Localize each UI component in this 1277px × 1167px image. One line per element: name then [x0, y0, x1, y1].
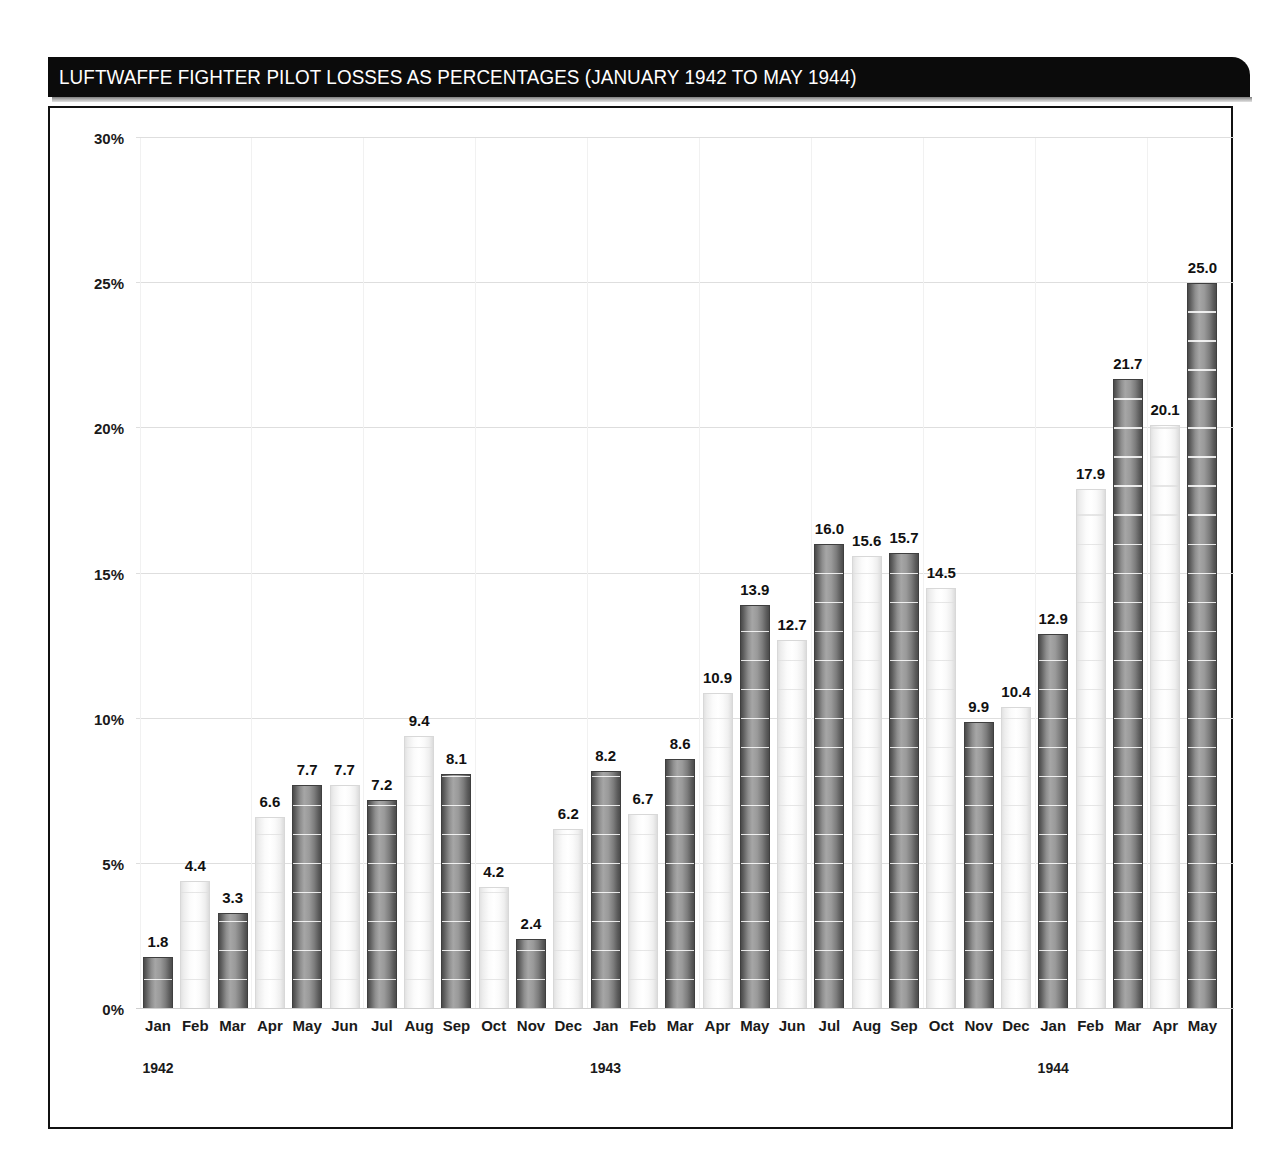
chart-title: LUFTWAFFE FIGHTER PILOT LOSSES AS PERCEN… [48, 65, 857, 89]
bar-value-label: 7.7 [334, 761, 355, 778]
bar[interactable] [479, 887, 509, 1009]
bar-segment-lines [965, 723, 993, 1008]
bar[interactable] [1038, 634, 1068, 1009]
bar-segment-lines [1188, 284, 1216, 1008]
y-axis-tick-label: 20% [54, 420, 124, 437]
bar-segment-lines [592, 772, 620, 1008]
v-gridline [1147, 138, 1148, 1009]
y-axis-tick-label: 25% [54, 275, 124, 292]
bar[interactable] [814, 544, 844, 1009]
bar[interactable] [1187, 283, 1217, 1009]
bar[interactable] [218, 913, 248, 1009]
bar[interactable] [926, 588, 956, 1009]
bar-value-label: 17.9 [1076, 465, 1105, 482]
bar-segment-lines [480, 888, 508, 1008]
bar-value-label: 3.3 [222, 889, 243, 906]
bar[interactable] [367, 800, 397, 1009]
bar-segment-lines [405, 737, 433, 1008]
y-axis-tick-label: 10% [54, 710, 124, 727]
bar[interactable] [889, 553, 919, 1009]
bar[interactable] [180, 881, 210, 1009]
bar-value-label: 7.7 [297, 761, 318, 778]
bar-value-label: 15.7 [889, 529, 918, 546]
bar[interactable] [852, 556, 882, 1009]
bar-value-label: 10.9 [703, 669, 732, 686]
h-gridline [136, 573, 1234, 574]
bar-segment-lines [666, 760, 694, 1008]
bar-segment-lines [815, 545, 843, 1008]
v-gridline [587, 138, 588, 1009]
bar-value-label: 8.1 [446, 750, 467, 767]
y-axis-tick-label: 0% [54, 1001, 124, 1018]
bar[interactable] [1001, 707, 1031, 1009]
bar[interactable] [777, 640, 807, 1009]
x-axis-tick-label: May [1180, 1017, 1224, 1034]
title-bar-shadow [52, 97, 1252, 102]
bar-segment-lines [741, 606, 769, 1008]
bar-segment-lines [1039, 635, 1067, 1008]
bar-value-label: 21.7 [1113, 355, 1142, 372]
bar-segment-lines [1077, 490, 1105, 1008]
bar[interactable] [1113, 379, 1143, 1009]
bar-segment-lines [704, 694, 732, 1008]
v-gridline [140, 138, 141, 1009]
bar[interactable] [665, 759, 695, 1009]
bar-segment-lines [144, 958, 172, 1008]
bar-segment-lines [1114, 380, 1142, 1008]
bar[interactable] [255, 817, 285, 1009]
bar-value-label: 10.4 [1001, 683, 1030, 700]
bar-value-label: 6.2 [558, 805, 579, 822]
year-group-label: 1942 [128, 1060, 188, 1076]
bar-value-label: 2.4 [521, 915, 542, 932]
year-group-label: 1944 [1023, 1060, 1083, 1076]
bar-value-label: 25.0 [1188, 259, 1217, 276]
bar[interactable] [330, 785, 360, 1009]
y-axis-tick-label: 5% [54, 855, 124, 872]
y-axis-tick-label: 15% [54, 565, 124, 582]
year-group-label: 1943 [576, 1060, 636, 1076]
bar[interactable] [1076, 489, 1106, 1009]
bar-value-label: 15.6 [852, 532, 881, 549]
bar-segment-lines [927, 589, 955, 1008]
h-gridline [136, 718, 1234, 719]
bar[interactable] [591, 771, 621, 1009]
v-gridline [251, 138, 252, 1009]
v-gridline [363, 138, 364, 1009]
v-gridline [923, 138, 924, 1009]
bar[interactable] [628, 814, 658, 1009]
bar-value-label: 12.9 [1039, 610, 1068, 627]
bar-value-label: 9.9 [968, 698, 989, 715]
bar[interactable] [441, 774, 471, 1009]
bar[interactable] [404, 736, 434, 1009]
v-gridline [699, 138, 700, 1009]
bar[interactable] [143, 957, 173, 1009]
bar-segment-lines [890, 554, 918, 1008]
v-gridline [811, 138, 812, 1009]
bar-segment-lines [219, 914, 247, 1008]
bar[interactable] [964, 722, 994, 1009]
bar-value-label: 4.4 [185, 857, 206, 874]
bar-segment-lines [554, 830, 582, 1008]
bar[interactable] [1150, 425, 1180, 1009]
bar-segment-lines [1151, 426, 1179, 1008]
h-gridline [136, 282, 1234, 283]
bar-value-label: 16.0 [815, 520, 844, 537]
h-gridline [136, 427, 1234, 428]
bar[interactable] [703, 693, 733, 1009]
bar-value-label: 4.2 [483, 863, 504, 880]
bar-value-label: 6.7 [632, 790, 653, 807]
bar[interactable] [292, 785, 322, 1009]
bar[interactable] [553, 829, 583, 1009]
bar-value-label: 13.9 [740, 581, 769, 598]
bar-value-label: 8.6 [670, 735, 691, 752]
bar-value-label: 14.5 [927, 564, 956, 581]
x-axis-baseline [136, 1008, 1234, 1009]
chart-title-bar: LUFTWAFFE FIGHTER PILOT LOSSES AS PERCEN… [48, 57, 1250, 97]
chart-figure: LUFTWAFFE FIGHTER PILOT LOSSES AS PERCEN… [0, 0, 1277, 1167]
bar[interactable] [740, 605, 770, 1009]
bar-segment-lines [517, 940, 545, 1008]
bar-segment-lines [778, 641, 806, 1008]
h-gridline [136, 137, 1234, 138]
bar[interactable] [516, 939, 546, 1009]
bar-value-label: 1.8 [148, 933, 169, 950]
